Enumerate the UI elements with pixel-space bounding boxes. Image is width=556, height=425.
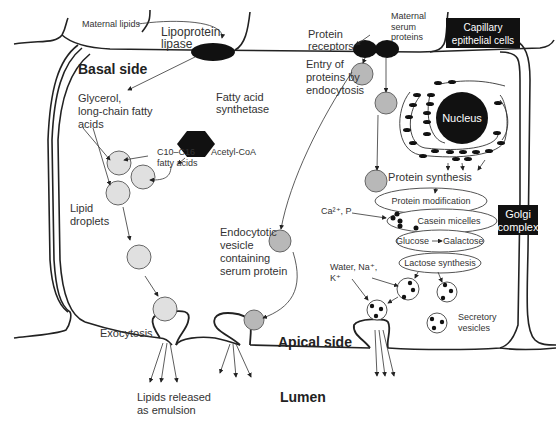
label-c10-c16-1: C10–C16 [157, 147, 195, 157]
label-basal-side: Basal side [78, 61, 147, 77]
label-maternal-serum-1: Maternal [391, 11, 426, 21]
label-endocytotic-1: Endocytotic [220, 226, 277, 238]
label-maternal-serum-2: serum [391, 22, 416, 32]
label-maternal-lipids: Maternal lipids [82, 19, 141, 29]
label-lipid-1: Lipid [70, 202, 93, 214]
label-acetyl-coa: Acetyl-CoA [211, 147, 256, 157]
label-lipid-2: droplets [70, 215, 110, 227]
label-secretory-1: Secretory [458, 312, 497, 322]
diagram-canvas: Maternal lipids Lipoprotein lipase Basal… [0, 0, 556, 425]
label-protein-receptors-2: receptors [308, 40, 354, 52]
protein-receptor-1 [353, 40, 377, 58]
label-endocytotic-3: containing [220, 252, 270, 264]
label-lipoprotein-2: lipase [161, 37, 193, 51]
label-lipids-released-2: as emulsion [137, 404, 196, 416]
label-endocytotic-4: serum protein [220, 265, 287, 277]
label-casein-micelles: Casein micelles [417, 216, 481, 226]
label-glycerol-3: acids [78, 118, 104, 130]
lipid-droplets [106, 151, 177, 321]
exocytosis-pores [152, 311, 389, 348]
label-golgi-1: Golgi [505, 208, 531, 220]
label-lipids-released-1: Lipids released [137, 391, 211, 403]
label-glucose: Glucose [396, 236, 429, 246]
label-entry-3: endocytosis [306, 84, 365, 96]
label-protein-receptors-1: Protein [308, 28, 343, 40]
label-nucleus: Nucleus [442, 112, 482, 124]
label-endocytotic-2: vesicle [220, 239, 254, 251]
label-ca-p: Ca²⁺, P [321, 206, 352, 216]
label-water-1: Water, Na⁺, [330, 262, 377, 272]
label-entry-1: Entry of [306, 58, 345, 70]
label-lumen: Lumen [280, 389, 326, 405]
label-lactose-synthesis: Lactose synthesis [404, 258, 476, 268]
label-capillary-1: Capillary [464, 22, 503, 33]
label-capillary-2: epithelial cells [452, 35, 514, 46]
secretory-vesicles [367, 278, 457, 333]
label-protein-synthesis: Protein synthesis [388, 171, 472, 183]
label-apical-side: Apical side [278, 334, 352, 350]
label-water-2: K⁺ [330, 273, 341, 283]
label-exocytosis: Exocytosis [100, 327, 153, 339]
lipoprotein-lipase-enzyme [191, 43, 235, 61]
label-golgi-2: complex [498, 221, 539, 233]
label-c10-c16-2: fatty acids [157, 158, 198, 168]
label-glycerol-1: Glycerol, [78, 92, 121, 104]
label-fatty-acid-2: synthetase [216, 103, 269, 115]
label-protein-modification: Protein modification [391, 196, 470, 206]
protein-receptor-2 [375, 40, 399, 58]
label-glycerol-2: long-chain fatty [78, 105, 153, 117]
label-secretory-2: vesicles [458, 323, 491, 333]
label-galactose: Galactose [443, 236, 484, 246]
label-entry-2: proteins by [306, 71, 360, 83]
label-maternal-serum-3: proteins [391, 32, 424, 42]
label-fatty-acid-1: Fatty acid [216, 91, 264, 103]
